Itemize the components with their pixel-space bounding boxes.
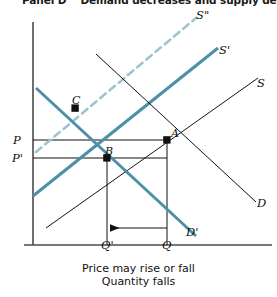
demand-curve-d-prime: [36, 88, 196, 236]
supply-demand-plot: [0, 0, 277, 297]
x-axis-label-q-prime: Q': [101, 238, 114, 252]
supply-curve-s-prime: [33, 48, 218, 196]
curve-label-d: D: [257, 196, 266, 210]
x-axis-label-q: Q: [162, 238, 171, 252]
caption-quantity: Quantity falls: [0, 275, 277, 288]
point-label-c: C: [72, 94, 80, 107]
curve-label-s-double-prime: S": [196, 8, 209, 22]
curve-label-d-prime: D': [186, 225, 198, 239]
curve-label-s-prime: S': [219, 43, 230, 57]
point-label-a: A: [171, 127, 179, 140]
point-marker-a: [163, 136, 170, 143]
panel-d-figure: Panel DDemand decreases and supply decre…: [0, 0, 277, 297]
y-axis-label-p-prime: P': [12, 151, 23, 165]
caption-price: Price may rise or fall: [0, 262, 277, 275]
curve-label-s: S: [257, 76, 265, 90]
y-axis-label-p: P: [13, 133, 21, 147]
point-label-b: B: [105, 145, 113, 158]
